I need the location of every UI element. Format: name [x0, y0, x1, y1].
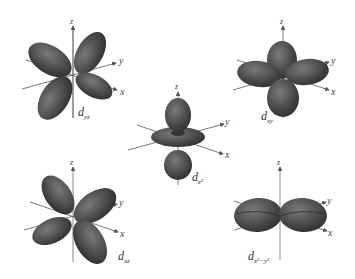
dx2y2-diagram — [200, 150, 355, 279]
axis-x-label: x — [328, 228, 332, 238]
axis-z-label: z — [175, 83, 178, 91]
dxz-lobes — [28, 170, 123, 270]
axis-y-label: y — [331, 56, 335, 66]
orbital-label-dyz: dyz — [78, 106, 90, 121]
axis-z-label: z — [70, 159, 73, 167]
orbital-label-dxy: dxy — [261, 110, 273, 125]
axis-y-label: y — [119, 56, 123, 66]
axis-y-label: y — [119, 198, 123, 208]
axis-x-label: x — [331, 87, 335, 97]
axis-y-label: y — [225, 117, 229, 127]
axis-z-label: z — [280, 18, 283, 26]
orbital-dxz: z y x dxz — [0, 150, 150, 279]
orbital-dx2y2: z y x dx²−y² — [200, 150, 355, 279]
dz2-lobes — [151, 98, 205, 180]
dx2y2-lobes — [233, 196, 328, 233]
orbital-label-dxz: dxz — [118, 250, 130, 265]
axis-x-label: x — [120, 229, 124, 239]
orbital-label-dx2y2: dx²−y² — [248, 250, 269, 265]
axis-z-label: z — [277, 159, 280, 167]
axis-z-label: z — [70, 18, 73, 26]
axis-y-label: y — [327, 196, 331, 206]
